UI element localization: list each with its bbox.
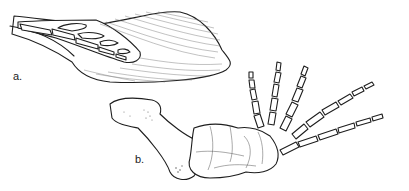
- flipper-illustration: [0, 0, 409, 191]
- panel-b-label: b.: [135, 153, 144, 165]
- panel-a-label: a.: [13, 70, 22, 82]
- panel-a-flipper: [10, 12, 230, 83]
